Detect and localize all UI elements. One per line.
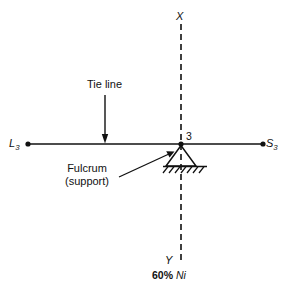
ground-hatching-icon — [163, 167, 204, 173]
right-endpoint-subscript: 3 — [273, 143, 277, 152]
fulcrum-annotation-label: Fulcrum (support) — [54, 163, 120, 187]
axis-label-x: X — [176, 11, 183, 22]
axis-label-y: Y — [165, 255, 172, 266]
tie-line-right-endpoint-label: S3 — [266, 138, 278, 149]
tie-line-left-endpoint-dot — [25, 141, 30, 146]
tie-line-left-endpoint-label: L3 — [9, 138, 20, 149]
fulcrum-leader-shaft — [119, 154, 170, 178]
tie-line-right-endpoint-dot — [260, 141, 265, 146]
tie-line-arrowhead-icon — [102, 134, 108, 144]
composition-percent: 60% — [152, 269, 173, 281]
diagram-canvas — [0, 0, 286, 295]
composition-element: Ni — [176, 269, 186, 281]
composition-label: 60%Ni — [152, 270, 186, 281]
left-endpoint-subscript: 3 — [15, 143, 19, 152]
fulcrum-annotation-line2: (support) — [54, 176, 120, 187]
fulcrum-annotation-line1: Fulcrum — [67, 162, 107, 174]
lever-rule-diagram: X Y L3 S3 3 Tie line Fulcrum (support) 6… — [0, 0, 286, 295]
fulcrum-node-label: 3 — [186, 131, 192, 142]
tie-line-annotation-label: Tie line — [87, 79, 122, 90]
